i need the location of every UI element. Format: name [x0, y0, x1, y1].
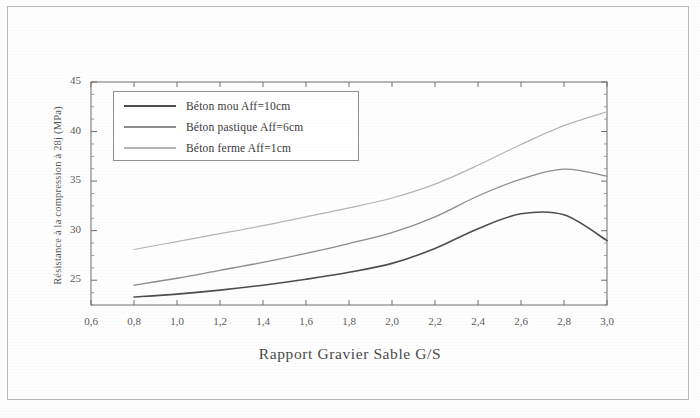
x-tick-label: 0,6 — [74, 315, 108, 327]
x-tick-label: 1,6 — [289, 315, 323, 327]
y-tick-label: 45 — [51, 74, 81, 86]
scanned-figure-page: Résistance à la compression à 28j (MPa) … — [0, 0, 700, 418]
legend-item-beton-pastique: Béton pastique Aff=6cm — [124, 117, 303, 137]
y-tick-label: 30 — [51, 223, 81, 235]
x-tick-label: 2,8 — [547, 315, 581, 327]
x-tick-label: 2,0 — [375, 315, 409, 327]
legend-label-beton-pastique: Béton pastique Aff=6cm — [186, 121, 303, 133]
x-tick-label: 1,8 — [332, 315, 366, 327]
x-tick-label: 1,0 — [160, 315, 194, 327]
legend-item-beton-mou: Béton mou Aff=10cm — [124, 96, 290, 116]
legend-item-beton-ferme: Béton ferme Aff=1cm — [124, 138, 291, 158]
x-tick-label: 2,2 — [418, 315, 452, 327]
x-tick-label: 2,6 — [504, 315, 538, 327]
x-axis-title: Rapport Gravier Sable G/S — [150, 345, 550, 363]
chart-legend: Béton mou Aff=10cm Béton pastique Aff=6c… — [113, 91, 359, 161]
x-tick-label: 1,2 — [203, 315, 237, 327]
legend-swatch-beton-ferme — [124, 147, 176, 148]
y-tick-label: 25 — [51, 272, 81, 284]
legend-label-beton-mou: Béton mou Aff=10cm — [186, 100, 290, 112]
legend-label-beton-ferme: Béton ferme Aff=1cm — [186, 142, 291, 154]
series-line-0 — [134, 212, 607, 297]
y-tick-label: 35 — [51, 173, 81, 185]
legend-swatch-beton-pastique — [124, 126, 176, 127]
x-tick-label: 0,8 — [117, 315, 151, 327]
legend-swatch-beton-mou — [124, 105, 176, 107]
x-tick-label: 3,0 — [590, 315, 624, 327]
y-tick-label: 40 — [51, 124, 81, 136]
x-tick-label: 2,4 — [461, 315, 495, 327]
x-tick-label: 1,4 — [246, 315, 280, 327]
